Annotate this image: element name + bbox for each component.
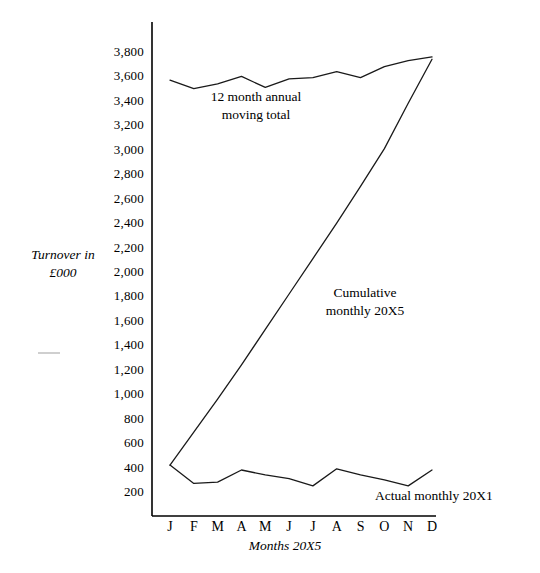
y-tick-label: 3,600 bbox=[92, 69, 144, 82]
x-tick-label: O bbox=[374, 520, 394, 534]
y-tick-label: 200 bbox=[92, 485, 144, 498]
annotation-moving-total-line1: 12 month annual bbox=[176, 88, 336, 106]
x-tick-label: D bbox=[422, 520, 442, 534]
x-tick-label: S bbox=[351, 520, 371, 534]
x-tick-label: J bbox=[279, 520, 299, 534]
x-tick-label: M bbox=[255, 520, 275, 534]
annotation-cumulative-line2: monthly 20X5 bbox=[300, 302, 430, 320]
annotation-moving-total: 12 month annual moving total bbox=[176, 88, 336, 124]
series-line-moving-total bbox=[170, 57, 432, 89]
annotation-cumulative-line1: Cumulative bbox=[300, 284, 430, 302]
x-tick-label: F bbox=[184, 520, 204, 534]
x-tick-label: A bbox=[231, 520, 251, 534]
y-tick-label: 2,400 bbox=[92, 216, 144, 229]
y-tick-label: 1,000 bbox=[92, 387, 144, 400]
y-tick-label: 3,800 bbox=[92, 45, 144, 58]
y-axis-title: Turnover in £000 bbox=[8, 246, 118, 282]
y-axis-title-line1: Turnover in bbox=[8, 246, 118, 264]
annotation-actual-monthly: Actual monthly 20X1 bbox=[375, 487, 535, 505]
y-tick-label: 1,800 bbox=[92, 289, 144, 302]
x-axis-title: Months 20X5 bbox=[190, 538, 380, 554]
y-tick-label: 400 bbox=[92, 461, 144, 474]
y-tick-label: 600 bbox=[92, 436, 144, 449]
annotation-cumulative: Cumulative monthly 20X5 bbox=[300, 284, 430, 320]
x-tick-label: M bbox=[208, 520, 228, 534]
y-tick-label: 3,000 bbox=[92, 143, 144, 156]
series-line-actual-monthly bbox=[170, 465, 432, 486]
x-tick-label: J bbox=[160, 520, 180, 534]
y-tick-label: 2,600 bbox=[92, 192, 144, 205]
y-tick-label: 1,200 bbox=[92, 363, 144, 376]
annotation-moving-total-line2: moving total bbox=[176, 106, 336, 124]
y-axis-title-line2: £000 bbox=[8, 264, 118, 282]
y-tick-label: 1,600 bbox=[92, 314, 144, 327]
y-tick-label: 1,400 bbox=[92, 338, 144, 351]
y-tick-label: 3,200 bbox=[92, 118, 144, 131]
x-tick-label: J bbox=[303, 520, 323, 534]
y-tick-label: 800 bbox=[92, 412, 144, 425]
y-tick-label: 3,400 bbox=[92, 94, 144, 107]
chart-root: 2004006008001,0001,2001,4001,6001,8002,0… bbox=[0, 0, 540, 573]
y-tick-label: 2,800 bbox=[92, 167, 144, 180]
x-tick-label: A bbox=[327, 520, 347, 534]
x-tick-label: N bbox=[398, 520, 418, 534]
